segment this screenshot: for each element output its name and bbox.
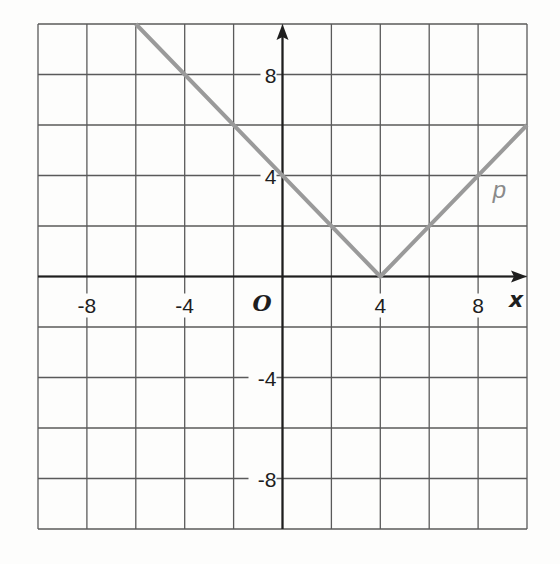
function-label: p [492,176,506,203]
y-tick-label: -4 [258,367,277,390]
x-axis-label: x [508,287,524,312]
y-tick-label: -8 [258,468,277,491]
x-tick-label: 4 [374,294,386,317]
x-tick-label: 8 [472,294,484,317]
x-tick-label: -4 [175,294,194,317]
axes [38,24,527,529]
coordinate-plane: -8-44884-4-8 p x O [0,0,560,564]
y-tick-label: 8 [265,64,277,87]
x-tick-label: -8 [78,294,97,317]
origin-label: O [253,290,272,316]
